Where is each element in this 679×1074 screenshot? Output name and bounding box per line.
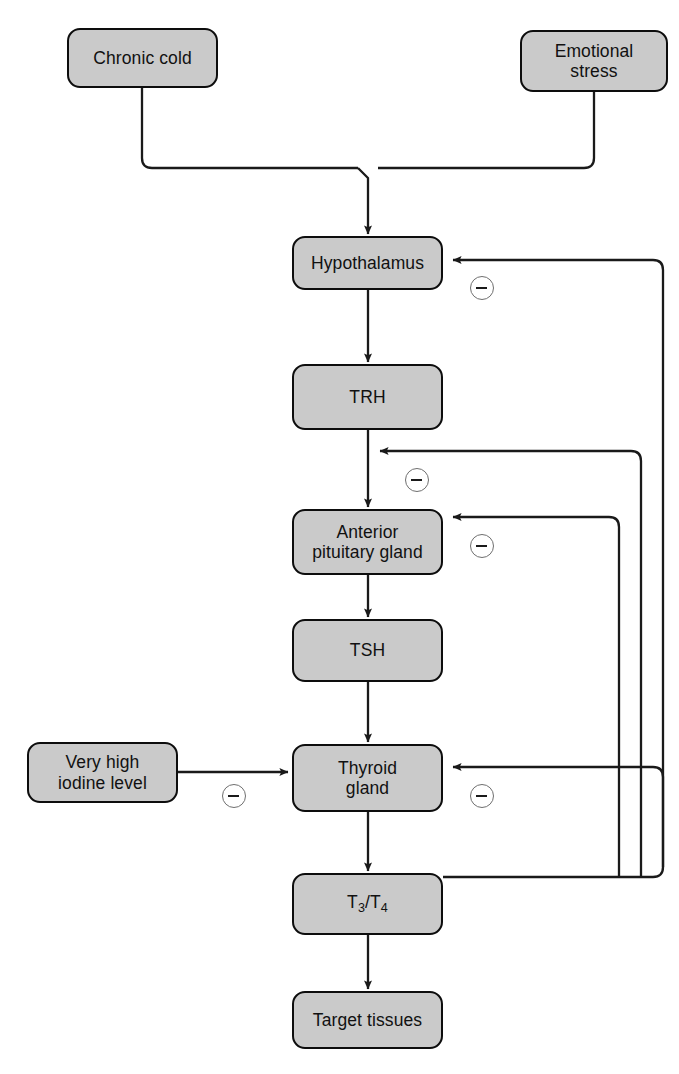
node-emotional-stress[interactable]: Emotional stress (520, 30, 668, 92)
edge-merge-to-hypothalamus (358, 168, 368, 234)
minus-icon-thyroid-gland-inhibition (470, 784, 494, 808)
flowchart-canvas: Chronic cold Emotional stress Hypothalam… (0, 0, 679, 1074)
t3-t4-sub-3: 3 (358, 901, 365, 915)
node-anterior-pituitary-gland-label: Anterior pituitary gland (306, 522, 428, 563)
edge-emotional-stress-to-merge (378, 92, 594, 168)
minus-icon-trh-pathway-inhibition (405, 468, 429, 492)
node-t3-t4-label: T3/T4 (341, 892, 394, 915)
edge-chronic-cold-to-merge (142, 88, 358, 168)
node-target-tissues[interactable]: Target tissues (292, 991, 443, 1049)
edge-t3t4-feedback-to-anterior-pituitary (453, 517, 619, 877)
node-very-high-iodine-level[interactable]: Very high iodine level (27, 742, 178, 803)
node-chronic-cold[interactable]: Chronic cold (67, 28, 218, 88)
t3-t4-t-first: T (347, 892, 358, 912)
t3-t4-t-second: T (370, 892, 381, 912)
node-emotional-stress-label: Emotional stress (549, 41, 640, 82)
node-trh-label: TRH (343, 387, 391, 407)
page-header (0, 0, 679, 11)
node-very-high-iodine-level-label: Very high iodine level (52, 752, 153, 793)
node-trh[interactable]: TRH (292, 364, 443, 430)
minus-icon-iodine-inhibition (222, 784, 246, 808)
node-thyroid-gland[interactable]: Thyroid gland (292, 744, 443, 812)
minus-icon-anterior-pituitary-inhibition (470, 534, 494, 558)
edge-t3t4-feedback-to-thyroid-gland (453, 767, 663, 867)
node-target-tissues-label: Target tissues (307, 1010, 428, 1030)
node-t3-t4[interactable]: T3/T4 (292, 873, 443, 935)
node-hypothalamus-label: Hypothalamus (305, 253, 430, 273)
t3-t4-sub-4: 4 (381, 901, 388, 915)
node-tsh[interactable]: TSH (292, 619, 443, 682)
node-thyroid-gland-label: Thyroid gland (332, 758, 403, 799)
node-hypothalamus[interactable]: Hypothalamus (292, 236, 443, 290)
node-chronic-cold-label: Chronic cold (87, 48, 197, 68)
node-anterior-pituitary-gland[interactable]: Anterior pituitary gland (292, 509, 443, 575)
node-tsh-label: TSH (344, 640, 391, 660)
minus-icon-hypothalamus-inhibition (470, 276, 494, 300)
